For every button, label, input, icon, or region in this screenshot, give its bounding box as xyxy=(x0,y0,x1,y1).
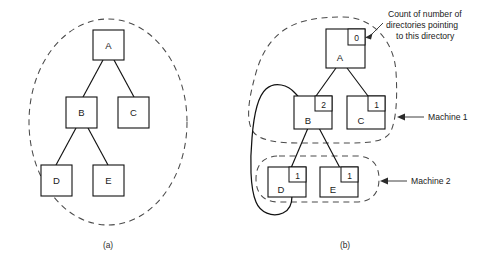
panel-a: A B C D E (a) xyxy=(29,19,187,250)
node-label: A xyxy=(337,52,344,63)
count-callout-line-2: directories pointing xyxy=(386,20,458,30)
node-label: D xyxy=(278,184,285,195)
node-count: 1 xyxy=(295,171,300,181)
panel-a-caption: (a) xyxy=(103,240,113,250)
machine-1-label: Machine 1 xyxy=(428,112,468,122)
node-label: E xyxy=(105,175,111,186)
node-label: B xyxy=(305,115,311,126)
node-a-D: D xyxy=(41,165,72,196)
node-label: E xyxy=(330,184,336,195)
node-a-B: B xyxy=(66,97,97,128)
edge-b-to-e xyxy=(88,128,108,165)
node-label: C xyxy=(130,107,137,118)
figure-canvas: A B C D E (a) xyxy=(0,0,488,265)
node-label: D xyxy=(53,175,60,186)
node-b-E: 1 E xyxy=(320,167,358,197)
node-b-B: 2 B xyxy=(294,96,332,129)
node-label: C xyxy=(358,115,365,126)
node-a-C: C xyxy=(118,97,149,128)
edge-a-to-b xyxy=(83,60,103,97)
node-b-A: 0 A xyxy=(326,29,365,68)
machine-2-label-group: Machine 2 xyxy=(380,176,451,186)
edge-b-B-to-E xyxy=(319,128,340,168)
node-label: A xyxy=(105,40,112,51)
machine-2-label: Machine 2 xyxy=(411,176,451,186)
node-label: B xyxy=(78,107,84,118)
node-count: 2 xyxy=(321,100,326,110)
node-b-D: 1 D xyxy=(268,167,306,197)
count-callout-line-3: to this directory xyxy=(396,31,455,41)
edge-b-B-to-D xyxy=(291,128,308,168)
edge-b-A-to-C xyxy=(347,68,368,96)
node-b-C: 1 C xyxy=(347,96,385,129)
node-count: 1 xyxy=(347,171,352,181)
panel-b-caption: (b) xyxy=(340,240,350,250)
edge-b-to-d xyxy=(56,128,76,165)
count-callout-annotation: Count of number of directories pointing … xyxy=(365,9,462,41)
edge-a-to-c xyxy=(114,60,134,97)
count-callout-line-1: Count of number of xyxy=(388,9,462,19)
edge-b-A-to-B xyxy=(316,68,336,96)
node-count: 0 xyxy=(354,33,359,43)
panel-b: 0 A 2 B 1 C 1 D 1 E xyxy=(249,9,468,250)
node-a-A: A xyxy=(93,30,124,60)
machine-1-label-group: Machine 1 xyxy=(397,112,468,122)
node-count: 1 xyxy=(374,100,379,110)
node-a-E: E xyxy=(93,165,124,196)
